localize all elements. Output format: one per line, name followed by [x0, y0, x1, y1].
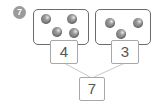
connector-left: [64, 63, 90, 77]
left-count-box: 4: [50, 40, 78, 64]
ball-icon: [133, 18, 143, 28]
ball-icon: [52, 27, 62, 37]
right-count-box: 3: [111, 40, 139, 64]
total-box: 7: [79, 77, 105, 101]
ball-icon: [41, 14, 51, 24]
ball-icon: [105, 18, 115, 28]
ball-icon: [67, 14, 77, 24]
ball-icon: [69, 28, 79, 38]
connector-right: [94, 63, 125, 77]
ball-icon: [116, 29, 126, 39]
